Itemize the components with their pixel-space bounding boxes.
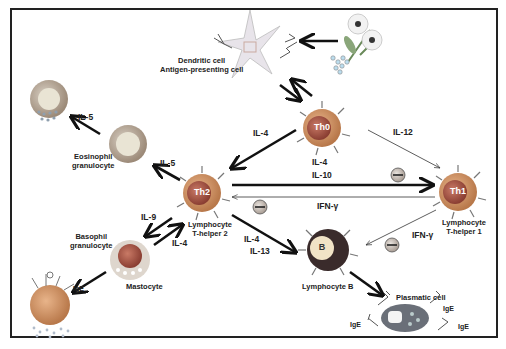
th1-name: Th1	[443, 186, 473, 196]
b-cell-name: B	[307, 242, 337, 252]
cytokine-ifng-th1-b: IFN-γ	[412, 230, 433, 240]
th2-label: Lymphocyte T-helper 2	[188, 220, 232, 238]
basophil-label-line1: Basophil	[70, 232, 113, 241]
eosinophil-label-line2: granulocyte	[72, 161, 115, 170]
ige-label: IgE	[443, 304, 454, 313]
cytokine-il4-mastocyte: IL-4	[172, 238, 187, 248]
arrow-th2-to-eosinophil	[155, 166, 180, 180]
cytokine-il9: IL-9	[141, 212, 156, 222]
plasmatic-cell-label: Plasmatic cell	[396, 293, 446, 302]
th2-name: Th2	[187, 187, 217, 197]
eosinophil-label-line1: Eosinophil	[72, 152, 115, 161]
ige-label: IgE	[350, 320, 361, 329]
arrow-bcell-to-plasmatic	[350, 272, 382, 295]
th1-label: Lymphocyte T-helper 1	[442, 218, 486, 236]
plasmatic-cell-icon	[381, 304, 429, 332]
cytokine-il4-th2-th1: IL-4	[312, 157, 327, 167]
basophil-label: Basophil granulocyte	[70, 232, 113, 250]
arrow-dendritic-to-th0	[280, 85, 300, 100]
th2-label-line2: T-helper 2	[188, 229, 232, 238]
ige-label: IgE	[458, 322, 469, 331]
allergen-flower-icon	[331, 14, 382, 74]
dendritic-label-line1: Dendritic cell	[160, 56, 243, 65]
cytokine-il4-bcell: IL-4	[244, 234, 259, 244]
cytokine-il5-eosinophil: IL-5	[160, 158, 175, 168]
b-cell-label: Lymphocyte B	[302, 282, 353, 291]
cytokine-il10: IL-10	[312, 170, 332, 180]
th1-label-line1: Lymphocyte	[442, 218, 486, 227]
th1-label-line2: T-helper 1	[442, 227, 486, 236]
degranulating-mastocyte-icon	[30, 272, 74, 338]
th0-name: Th0	[307, 122, 337, 132]
th2-label-line1: Lymphocyte	[188, 220, 232, 229]
dendritic-cell-label: Dendritic cell Antigen-presenting cell	[160, 56, 243, 74]
eosinophil-label: Eosinophil granulocyte	[72, 152, 115, 170]
arrow-th0-to-dendritic	[292, 80, 312, 96]
dendritic-label-line2: Antigen-presenting cell	[160, 65, 243, 74]
b-cell-icon	[298, 229, 358, 275]
mastocyte-icon	[110, 240, 150, 280]
cytokine-il13: IL-13	[250, 246, 270, 256]
mastocyte-label: Mastocyte	[126, 282, 163, 291]
cytokine-il5-top: IL-5	[78, 112, 93, 122]
cytokine-il4-th0-th2: IL-4	[253, 128, 268, 138]
ige-label: IgE	[73, 284, 84, 293]
cytokine-il12: IL-12	[393, 127, 413, 137]
basophil-label-line2: granulocyte	[70, 241, 113, 250]
cytokine-ifng-th1-th2: IFN-γ	[317, 201, 338, 211]
